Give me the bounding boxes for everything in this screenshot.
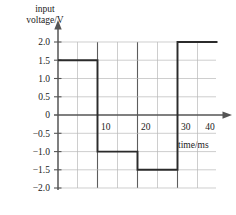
y-tick-label: 1.5	[38, 56, 50, 66]
axes	[54, 20, 232, 190]
y-tick-label: −0.5	[33, 129, 50, 139]
y-axis-tick-labels: 2.0 1.5 1.0 0.5 0 −0.5 −1.0 −1.5 −2.0	[33, 37, 50, 193]
x-tick-label: 40	[205, 122, 215, 132]
y-axis-arrowhead	[54, 20, 61, 30]
y-tick-label: −1.0	[33, 147, 50, 157]
x-axis-tick-labels: 10 20 30 40	[101, 122, 215, 132]
x-axis-arrowhead	[223, 111, 233, 118]
y-tick-label: 0	[45, 110, 50, 120]
plot-canvas: 2.0 1.5 1.0 0.5 0 −0.5 −1.0 −1.5 −2.0 10…	[0, 0, 236, 215]
y-tick-label: 1.0	[38, 74, 50, 84]
y-tick-label: 2.0	[38, 37, 50, 47]
y-tick-label: −1.5	[33, 165, 50, 175]
x-tick-label: 30	[181, 122, 191, 132]
x-tick-label: 10	[101, 122, 111, 132]
y-tick-label: 0.5	[38, 92, 50, 102]
x-tick-label: 20	[141, 122, 151, 132]
y-tick-label: −2.0	[33, 183, 50, 193]
voltage-time-chart: input voltage/V time/ms	[0, 0, 236, 215]
